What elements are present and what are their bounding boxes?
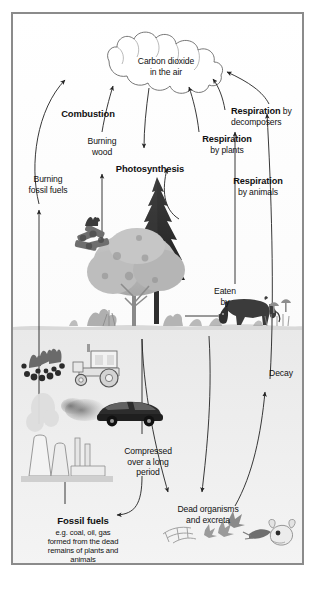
carbon-cycle-figure: Combustion Burning wood Burning fossil f… <box>0 0 319 589</box>
label-combustion: Combustion <box>43 109 133 120</box>
label-fossil-fuels: Fossil fuels e.g. coal, oil, gas formed … <box>19 516 147 564</box>
label-burning-wood-line2: wood <box>71 147 133 158</box>
diagram-frame: Combustion Burning wood Burning fossil f… <box>11 12 304 565</box>
label-respiration-animals-bold: Respiration <box>218 176 298 187</box>
label-fossil-fuels-line1: e.g. coal, oil, gas <box>19 528 147 537</box>
label-fossil-fuels-line2: formed from the dead <box>19 537 147 546</box>
label-respiration-by-decomposers: Respiration by decomposers <box>231 106 304 127</box>
label-decay: Decay <box>256 368 304 379</box>
label-atmosphere-line1: Carbon dioxide <box>118 56 214 67</box>
label-dead-organisms-and-excreta: Dead organisms and excreta <box>158 504 258 525</box>
label-eaten-by-line1: Eaten <box>203 286 247 297</box>
label-dead-organisms-line2: and excreta <box>158 515 258 526</box>
label-fossil-fuels-line4: animals <box>19 555 147 564</box>
label-burning-wood-line1: Burning <box>71 136 133 147</box>
label-respiration-animals-rest: by animals <box>218 187 298 198</box>
label-atmosphere-line2: in the air <box>118 67 214 78</box>
label-burning-fossil-line2: fossil fuels <box>15 185 81 196</box>
label-respiration-decomposers-bold: Respiration <box>231 106 280 116</box>
label-respiration-plants-rest: by plants <box>188 145 266 156</box>
label-respiration-plants-bold: Respiration <box>188 134 266 145</box>
label-carbon-dioxide-in-the-air: Carbon dioxide in the air <box>118 56 214 77</box>
diagram-canvas <box>13 14 304 565</box>
label-burning-fossil-fuels: Burning fossil fuels <box>15 174 81 195</box>
label-fossil-fuels-line3: remains of plants and <box>19 546 147 555</box>
label-photosynthesis: Photosynthesis <box>105 164 195 175</box>
label-respiration-decomposers-rest: decomposers <box>231 117 304 128</box>
label-eaten-by-line2: by <box>203 297 247 308</box>
label-fossil-fuels-bold: Fossil fuels <box>19 516 147 527</box>
label-respiration-by-animals: Respiration by animals <box>218 176 298 197</box>
label-compressed-line2: over a long <box>112 457 184 468</box>
label-compressed-line3: period <box>112 467 184 478</box>
label-dead-organisms-line1: Dead organisms <box>158 504 258 515</box>
label-respiration-decomposers-by: by <box>280 106 291 116</box>
label-compressed-line1: Compressed <box>112 446 184 457</box>
label-compressed-over-a-long-period: Compressed over a long period <box>112 446 184 478</box>
label-burning-fossil-line1: Burning <box>15 174 81 185</box>
label-burning-wood: Burning wood <box>71 136 133 157</box>
label-eaten-by: Eaten by <box>203 286 247 307</box>
label-respiration-by-plants: Respiration by plants <box>188 134 266 155</box>
